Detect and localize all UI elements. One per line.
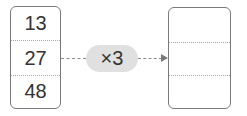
output-cell-3	[169, 76, 230, 107]
input-list-box: 13 27 48	[10, 6, 61, 109]
output-cell-1	[169, 8, 230, 42]
arrow-right-icon	[161, 54, 168, 62]
output-list-box	[168, 7, 231, 109]
connector-line-out	[138, 58, 162, 59]
operation-label: ×3	[101, 47, 124, 70]
input-cell-3: 48	[11, 76, 60, 107]
input-cell-2: 27	[11, 41, 60, 75]
input-cell-1: 13	[11, 7, 60, 40]
output-cell-2	[169, 43, 230, 75]
connector-line-in	[61, 58, 86, 59]
operation-pill: ×3	[86, 45, 138, 72]
